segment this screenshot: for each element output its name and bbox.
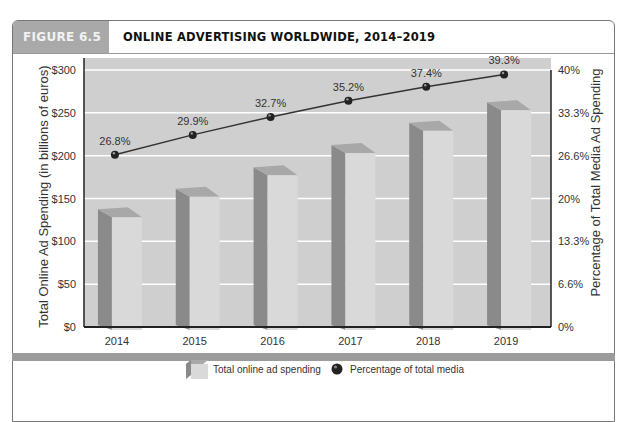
bar-front bbox=[423, 131, 453, 330]
bar-side bbox=[254, 167, 268, 330]
bar-side bbox=[98, 209, 112, 330]
y2-tick-label: 13.3% bbox=[558, 235, 589, 247]
plot-background bbox=[84, 58, 551, 327]
x-tick-label: 2017 bbox=[338, 335, 362, 347]
x-tick-label: 2018 bbox=[416, 335, 440, 347]
data-point-highlight bbox=[346, 98, 348, 100]
legend-label-line: Percentage of total media bbox=[350, 364, 464, 375]
data-label: 32.7% bbox=[255, 97, 286, 109]
y-tick-label: $150 bbox=[52, 193, 76, 205]
data-point bbox=[500, 70, 508, 78]
y2-axis-title: Percentage of Total Media Ad Spending bbox=[588, 68, 603, 296]
data-point bbox=[189, 131, 197, 139]
y2-tick-label: 26.6% bbox=[558, 150, 589, 162]
data-label: 39.3% bbox=[488, 54, 519, 66]
legend-sphere-icon bbox=[332, 364, 343, 375]
legend-bar-side bbox=[186, 360, 191, 379]
data-label: 35.2% bbox=[333, 81, 364, 93]
bar bbox=[98, 207, 142, 330]
bar-side bbox=[487, 102, 501, 330]
bar-front bbox=[501, 110, 531, 330]
data-point-highlight bbox=[191, 132, 193, 134]
y2-tick-label: 6.6% bbox=[558, 278, 583, 290]
bar bbox=[254, 165, 298, 330]
bar bbox=[487, 100, 531, 330]
legend-item-bars[interactable]: Total online ad spending bbox=[186, 360, 321, 379]
x-tick-label: 2016 bbox=[260, 335, 284, 347]
data-point bbox=[111, 151, 119, 159]
y-axis-title: Total Online Ad Spending (in billions of… bbox=[36, 65, 51, 327]
data-point-highlight bbox=[424, 84, 426, 86]
x-ticks: 201420152016201720182019 bbox=[105, 335, 519, 347]
y-tick-label: $100 bbox=[52, 235, 76, 247]
bar-front bbox=[268, 175, 298, 330]
data-point-highlight bbox=[502, 72, 504, 74]
bar-side bbox=[331, 145, 345, 330]
bar bbox=[409, 121, 453, 330]
y-tick-label: $200 bbox=[52, 150, 76, 162]
bar-front bbox=[345, 153, 375, 330]
y-ticks-left: $0$50$100$150$200$250$300 bbox=[52, 64, 76, 333]
data-label: 29.9% bbox=[177, 115, 208, 127]
data-label: 26.8% bbox=[99, 135, 130, 147]
y-tick-label: $50 bbox=[58, 278, 76, 290]
bar bbox=[176, 187, 220, 330]
data-label: 37.4% bbox=[411, 67, 442, 79]
y2-tick-label: 40% bbox=[558, 64, 580, 76]
y2-tick-label: 33.3% bbox=[558, 107, 589, 119]
bar-side bbox=[176, 189, 190, 330]
bar-side bbox=[409, 123, 423, 330]
legend-label-bars: Total online ad spending bbox=[213, 364, 321, 375]
bar-front bbox=[190, 197, 220, 330]
y-tick-label: $300 bbox=[52, 64, 76, 76]
legend-item-line[interactable]: Percentage of total media bbox=[332, 364, 465, 376]
data-point-highlight bbox=[113, 152, 115, 154]
y-tick-label: $250 bbox=[52, 107, 76, 119]
x-tick-label: 2015 bbox=[183, 335, 207, 347]
legend-sphere-highlight bbox=[334, 366, 337, 369]
x-tick-label: 2019 bbox=[494, 335, 518, 347]
legend: Total online ad spending Percentage of t… bbox=[186, 360, 464, 379]
bar-front bbox=[112, 217, 142, 330]
y2-tick-label: 0% bbox=[558, 321, 574, 333]
data-point bbox=[344, 97, 352, 105]
x-tick-label: 2014 bbox=[105, 335, 129, 347]
y-tick-label: $0 bbox=[64, 321, 76, 333]
bar bbox=[331, 143, 375, 330]
y2-tick-label: 20% bbox=[558, 193, 580, 205]
legend-bar-swatch-icon bbox=[191, 364, 208, 379]
data-point bbox=[422, 83, 430, 91]
data-point bbox=[267, 113, 275, 121]
y-ticks-right: 0%6.6%13.3%20%26.6%33.3%40% bbox=[558, 64, 589, 333]
data-point-highlight bbox=[268, 114, 270, 116]
